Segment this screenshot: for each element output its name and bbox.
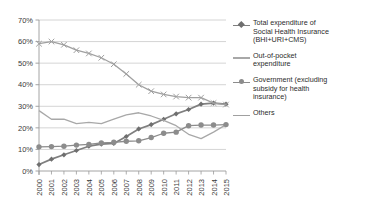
series-3	[36, 122, 228, 150]
y-axis-tick-label: 10%	[18, 145, 33, 154]
legend-marker-diamond-icon	[233, 21, 250, 31]
y-axis-tick-label: 30%	[18, 102, 33, 111]
x-axis-tick-label: 2011	[172, 179, 181, 195]
x-axis-tick-label: 2013	[197, 179, 206, 196]
x-axis-tick-label: 2006	[110, 179, 119, 196]
legend-item-government[interactable]: Government (excluding subsidy for health…	[233, 76, 365, 102]
series-4	[36, 39, 229, 108]
gridlines	[39, 20, 226, 171]
x-axis-tick-label: 2015	[222, 179, 231, 196]
legend-label-total-expenditure: Total expenditure of Social Health Insur…	[253, 19, 329, 45]
x-axis-tick-label: 2003	[72, 179, 81, 196]
legend-marker-circle-icon	[233, 78, 250, 88]
legend-item-others[interactable]: Others	[233, 109, 365, 121]
x-axis-tick-label: 2008	[135, 179, 144, 196]
x-axis-ticks	[39, 171, 226, 175]
chart-legend: Total expenditure of Social Health Insur…	[233, 19, 365, 128]
x-axis-tick-label: 2010	[160, 179, 169, 196]
y-axis-labels: 0%10%20%30%40%50%60%70%	[18, 16, 33, 176]
legend-marker-x-icon	[233, 111, 250, 121]
legend-label-government: Government (excluding subsidy for health…	[253, 76, 327, 102]
x-axis-tick-label: 2002	[60, 179, 69, 196]
series-1	[36, 100, 228, 167]
x-axis-tick-label: 2005	[97, 179, 106, 196]
x-axis-tick-label: 2004	[85, 179, 94, 196]
x-axis-tick-label: 2000	[35, 179, 44, 196]
legend-label-out-of-pocket: Out-of-pocket expenditure	[253, 52, 297, 69]
legend-item-total-expenditure[interactable]: Total expenditure of Social Health Insur…	[233, 19, 365, 45]
y-axis-tick-label: 40%	[18, 80, 33, 89]
y-axis-tick-label: 0%	[22, 167, 33, 176]
x-axis-tick-label: 2014	[210, 179, 219, 196]
legend-label-others: Others	[253, 109, 275, 118]
x-axis-labels: 2000200120022003200420052006200720082009…	[35, 179, 231, 196]
legend-marker-line-icon	[233, 54, 250, 64]
x-axis-tick-label: 2012	[185, 179, 194, 196]
y-axis-tick-label: 70%	[18, 16, 33, 25]
x-axis-tick-label: 2001	[47, 179, 56, 196]
x-axis-tick-label: 2007	[122, 179, 131, 196]
x-axis-tick-label: 2009	[147, 179, 156, 196]
y-axis-tick-label: 50%	[18, 59, 33, 68]
legend-item-out-of-pocket[interactable]: Out-of-pocket expenditure	[233, 52, 365, 69]
y-axis-tick-label: 60%	[18, 37, 33, 46]
data-series-group	[36, 39, 229, 167]
y-axis-tick-label: 20%	[18, 124, 33, 133]
chart-container: 0%10%20%30%40%50%60%70% 2000200120022003…	[0, 0, 366, 214]
